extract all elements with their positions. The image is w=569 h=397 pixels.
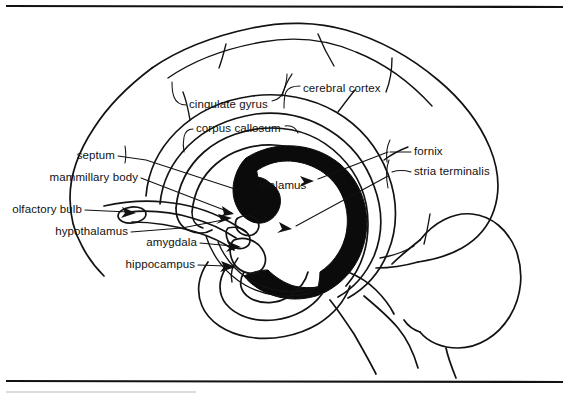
label-mammillary-body: mammillary body bbox=[50, 172, 138, 184]
label-cerebral-cortex: cerebral cortex bbox=[303, 83, 381, 95]
leader-amygdala bbox=[200, 243, 232, 246]
cerebellum-outline bbox=[420, 214, 521, 348]
figure-limbic-system-diagram: cerebral cortex cingulate gyrus corpus c… bbox=[0, 0, 569, 397]
septum-tick bbox=[125, 146, 126, 163]
label-fornix: fornix bbox=[414, 146, 443, 158]
label-amygdala: amygdala bbox=[146, 237, 197, 249]
brainstem-posterior bbox=[364, 296, 418, 368]
sulcus-tick-3 bbox=[386, 58, 392, 92]
label-olfactory-bulb: olfactory bulb bbox=[12, 204, 82, 216]
brain-diagram-svg bbox=[0, 0, 569, 397]
label-hypothalamus: hypothalamus bbox=[55, 226, 128, 238]
cerebellum-anterior-edge bbox=[392, 240, 420, 264]
leader-fornix-tick bbox=[387, 140, 390, 162]
label-septum: septum bbox=[77, 150, 115, 162]
tentorium-line bbox=[380, 246, 414, 258]
cerebellar-tail bbox=[446, 348, 456, 378]
label-thalamus: thalamus bbox=[259, 180, 306, 192]
arrowhead-stria-terminalis bbox=[277, 222, 292, 233]
brainstem-anterior bbox=[330, 300, 376, 374]
arrowhead-olfactory-bulb bbox=[121, 207, 136, 218]
bottom-rule bbox=[6, 381, 563, 382]
sulcus-tick-1 bbox=[219, 44, 226, 68]
leader-stria-terminalis bbox=[392, 171, 411, 173]
cerebellum-peduncle bbox=[404, 320, 420, 332]
label-corpus-callosum: corpus callosum bbox=[196, 123, 281, 135]
label-hippocampus: hippocampus bbox=[125, 259, 195, 271]
label-cingulate-gyrus: cingulate gyrus bbox=[189, 99, 268, 111]
top-rule bbox=[6, 6, 563, 7]
label-stria-terminalis: stria terminalis bbox=[414, 166, 490, 178]
sulcus-tick-2 bbox=[318, 34, 334, 66]
